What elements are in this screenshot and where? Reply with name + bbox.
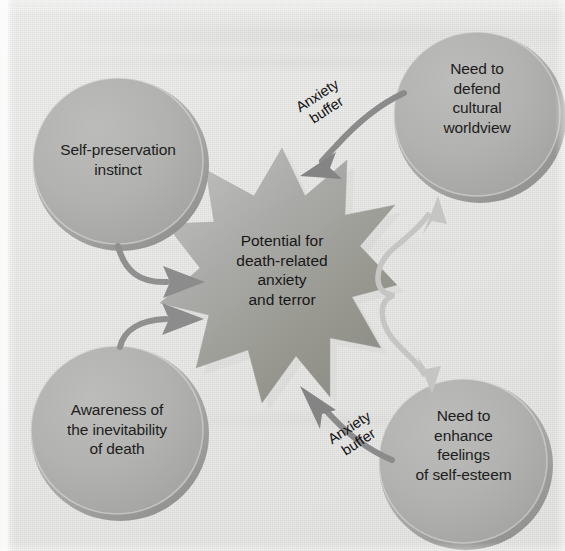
arrow-center-to-enhance-self-esteem xyxy=(382,296,441,394)
node-self-preservation[interactable] xyxy=(33,78,209,251)
diagram-canvas: Self-preservation instinct Need to defen… xyxy=(0,0,565,551)
arrow-defend-worldview-to-center xyxy=(300,93,404,179)
node-awareness-of-death[interactable] xyxy=(31,346,209,521)
arrow-enhance-self-esteem-to-center xyxy=(300,386,392,460)
node-defend-worldview[interactable] xyxy=(394,32,565,203)
node-enhance-self-esteem[interactable] xyxy=(379,379,553,550)
diagram-artwork xyxy=(0,0,565,551)
